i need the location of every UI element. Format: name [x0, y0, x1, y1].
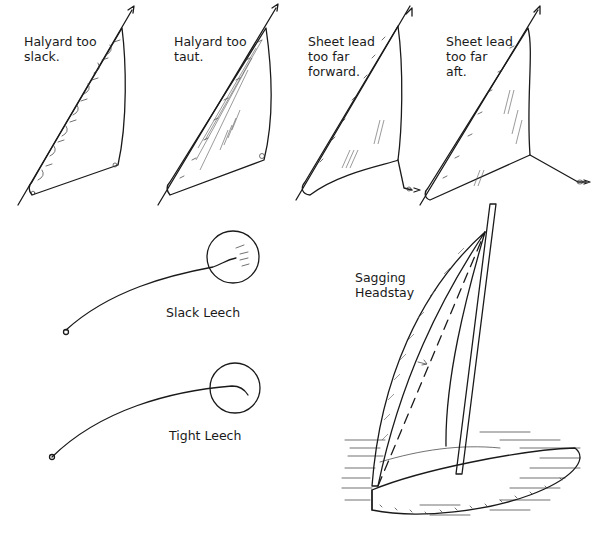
sailboat-sagging-headstay — [342, 204, 580, 515]
caption-sheet-aft: Sheet lead too far aft. — [446, 34, 513, 79]
caption-halyard-taut: Halyard too taut. — [174, 34, 247, 64]
sail-trim-illustration — [0, 0, 599, 536]
caption-sheet-forward: Sheet lead too far forward. — [308, 34, 375, 79]
tight-leech-diagram — [50, 363, 261, 460]
caption-slack-leech: Slack Leech — [166, 305, 240, 320]
caption-sagging-headstay: Sagging Headstay — [355, 270, 414, 300]
caption-halyard-slack: Halyard too slack. — [24, 34, 97, 64]
caption-tight-leech: Tight Leech — [169, 428, 241, 443]
